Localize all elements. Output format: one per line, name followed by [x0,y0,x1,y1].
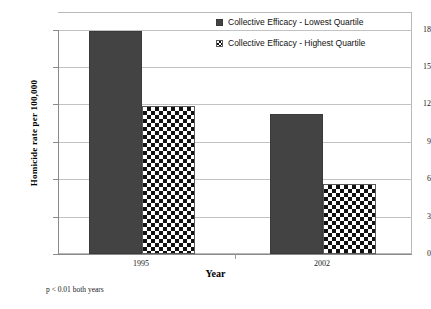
bar-chart: 18 15 12 9 6 3 0 Homicide rate per 100,0… [0,0,431,309]
legend-swatch-solid-icon [216,19,223,26]
legend: Collective Efficacy - Lowest Quartile Co… [216,17,422,59]
bar-lowest-1995 [89,31,142,254]
bar-highest-2002 [323,184,376,254]
bar-highest-1995 [142,106,195,254]
bar-lowest-2002 [270,114,323,254]
legend-item-highest: Collective Efficacy - Highest Quartile [216,38,422,48]
y-tick-mark-0 [53,254,59,255]
x-tick-mark-mid [235,254,236,259]
x-axis-title: Year [0,268,431,279]
footnote: p < 0.01 both years [46,285,104,294]
legend-label-lowest: Collective Efficacy - Lowest Quartile [228,18,363,27]
legend-label-highest: Collective Efficacy - Highest Quartile [228,39,365,48]
x-tick-label-2002: 2002 [277,259,367,268]
legend-swatch-checkered-icon [216,40,223,47]
y-axis-title: Homicide rate per 100,000 [29,33,39,233]
x-tick-label-1995: 1995 [96,259,186,268]
legend-item-lowest: Collective Efficacy - Lowest Quartile [216,17,422,27]
